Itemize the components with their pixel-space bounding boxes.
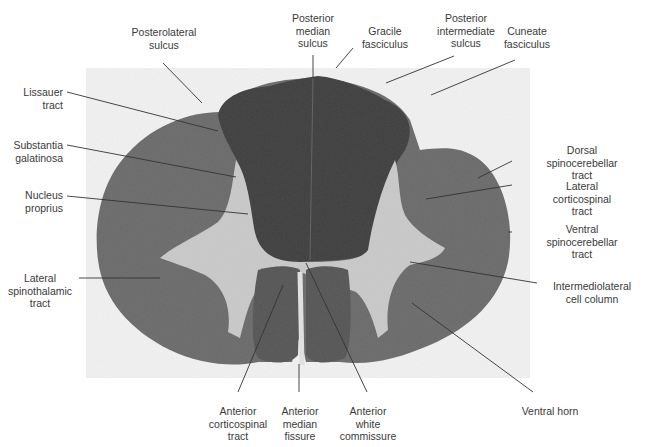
label-cuneate-fasciculus: Cuneate fasciculus <box>495 25 559 50</box>
label-lateral-corticospinal-tract: Lateral corticospinal tract <box>530 180 634 218</box>
label-nucleus-proprius: Nucleus proprius <box>0 189 63 214</box>
label-anterior-white-commissure: Anterior white commissure <box>336 405 400 443</box>
label-anterior-median-fissure: Anterior median fissure <box>277 405 323 443</box>
label-posterior-median-sulcus: Posterior median sulcus <box>285 12 341 50</box>
label-lissauer-tract: Lissauer tract <box>0 86 63 111</box>
label-ventral-horn: Ventral horn <box>510 405 590 418</box>
label-anterior-corticospinal-tract: Anterior corticospinal tract <box>200 405 276 443</box>
label-dorsal-spinocerebellar-tract: Dorsal spinocerebellar tract <box>530 144 634 182</box>
label-ventral-spinocerebellar-tract: Ventral spinocerebellar tract <box>530 223 634 261</box>
label-lateral-spinothalamic-tract: Lateral spinothalamic tract <box>0 272 80 310</box>
label-gracile-fasciculus: Gracile fasciculus <box>355 25 415 50</box>
spinal-cord-figure: Posterolateral sulcus Posterior median s… <box>0 0 645 447</box>
label-intermediolateral-cell-column: Intermediolateral cell column <box>540 280 644 305</box>
label-posterior-intermediate-sulcus: Posterior intermediate sulcus <box>428 12 504 50</box>
label-substantia-galatinosa: Substantia galatinosa <box>0 139 63 164</box>
label-posterolateral-sulcus: Posterolateral sulcus <box>118 26 210 51</box>
